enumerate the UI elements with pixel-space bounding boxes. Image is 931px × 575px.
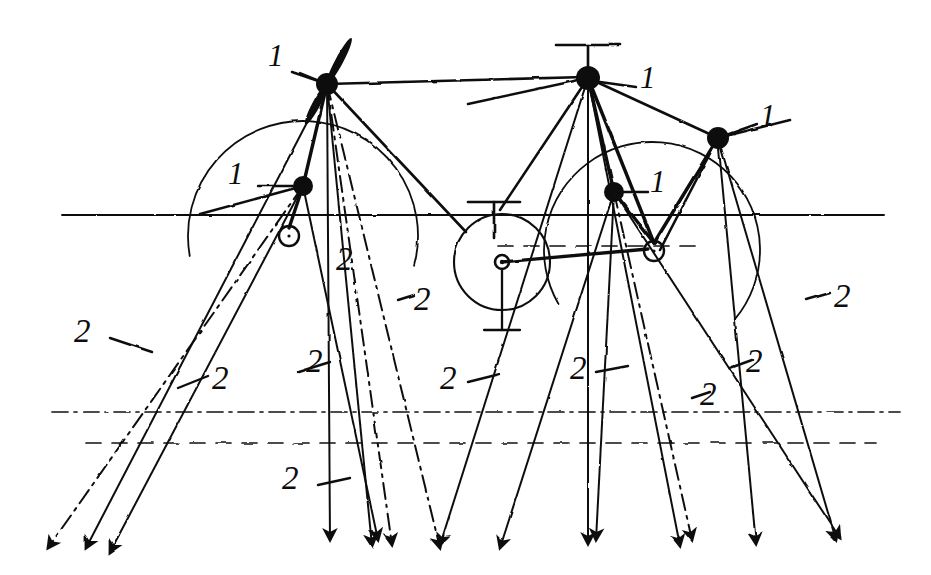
station-node-n3 bbox=[576, 66, 600, 90]
callout-label-c2b: 2 bbox=[212, 362, 229, 395]
dish-hub-dot bbox=[500, 260, 504, 264]
diagram-canvas: 1111122222222222 bbox=[0, 0, 931, 575]
callout-label-c1a: 1 bbox=[268, 40, 284, 71]
hub-dot-s2 bbox=[652, 249, 655, 252]
ray-path-8 bbox=[440, 78, 588, 545]
callout-leader-c2f bbox=[468, 374, 500, 382]
station-node-n2 bbox=[293, 176, 313, 196]
station-node-n5 bbox=[707, 127, 729, 149]
callout-label-c2j: 2 bbox=[834, 280, 851, 313]
node-link-l7 bbox=[502, 249, 648, 262]
ray-path-22 bbox=[468, 78, 588, 104]
ray-path-19 bbox=[327, 84, 466, 232]
callout-label-c2g: 2 bbox=[570, 352, 587, 385]
callout-label-c2k: 2 bbox=[282, 462, 299, 495]
station-node-n4 bbox=[604, 182, 624, 202]
callout-label-c1e: 1 bbox=[760, 100, 776, 131]
callout-label-c1d: 1 bbox=[650, 166, 666, 197]
callout-label-c1c: 1 bbox=[640, 62, 656, 93]
callout-label-c1b: 1 bbox=[228, 158, 244, 189]
callout-leader-c2b bbox=[178, 376, 208, 388]
callout-label-c2a: 2 bbox=[74, 315, 91, 348]
hub-dot-s1 bbox=[287, 234, 290, 237]
ray-path-17 bbox=[718, 138, 836, 540]
callout-leader-c2j bbox=[806, 293, 830, 300]
callout-label-c2h: 2 bbox=[700, 378, 717, 411]
ray-path-9 bbox=[500, 78, 588, 210]
callout-leader-c2k bbox=[318, 478, 350, 485]
ray-path-1 bbox=[110, 186, 303, 552]
callout-leader-c2g bbox=[596, 366, 628, 372]
callout-label-c2i: 2 bbox=[746, 345, 763, 378]
callout-label-c2f: 2 bbox=[440, 362, 457, 395]
callout-label-c2e: 2 bbox=[306, 345, 323, 378]
callout-label-c2d: 2 bbox=[414, 283, 431, 316]
callout-label-c2c: 2 bbox=[336, 243, 353, 276]
station-node-n1 bbox=[316, 73, 338, 95]
callout-leader-c2d bbox=[398, 295, 414, 300]
ray-path-12 bbox=[596, 192, 614, 540]
ray-path-13 bbox=[588, 78, 680, 546]
dish-assembly bbox=[454, 214, 550, 330]
reference-lines bbox=[52, 215, 900, 443]
ray-path-0 bbox=[48, 186, 303, 548]
sketch-svg bbox=[0, 0, 931, 575]
ray-path-24 bbox=[718, 120, 790, 138]
ray-path-20 bbox=[327, 77, 585, 84]
callout-leader-c2a bbox=[110, 338, 152, 352]
ray-path-23 bbox=[200, 186, 303, 214]
ray-path-16 bbox=[718, 138, 756, 544]
